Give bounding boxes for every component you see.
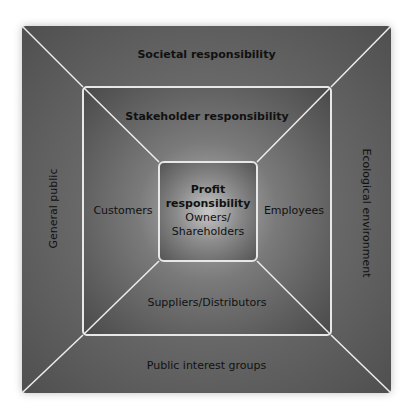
customers-label: Customers [88, 204, 158, 217]
suppliers-distributors-label: Suppliers/Distributors [82, 296, 332, 309]
societal-responsibility-label: Societal responsibility [22, 48, 391, 61]
public-interest-groups-label: Public interest groups [22, 359, 391, 372]
ecological-environment-label: Ecological environment [360, 149, 373, 269]
stakeholder-responsibility-label: Stakeholder responsibility [82, 110, 332, 123]
profit-title-line2: responsibility [158, 197, 258, 210]
profit-title-line1: Profit [158, 183, 258, 196]
employees-label: Employees [258, 204, 330, 217]
owners-label: Owners/ [158, 211, 258, 224]
general-public-label: General public [47, 154, 60, 264]
responsibility-diagram: Societal responsibility Public interest … [0, 0, 411, 415]
shareholders-label: Shareholders [158, 225, 258, 238]
